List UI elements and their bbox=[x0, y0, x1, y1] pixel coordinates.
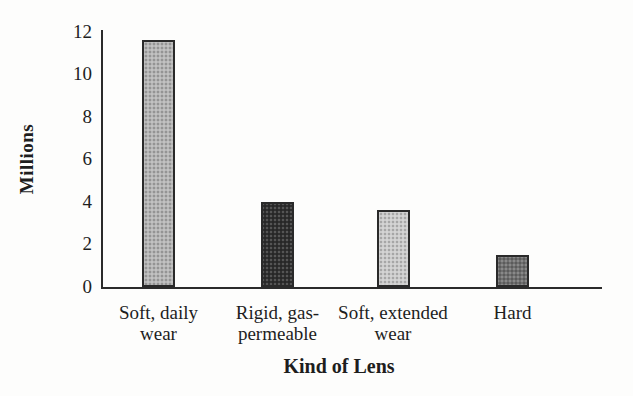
y-tick-label: 12 bbox=[50, 22, 92, 42]
category-label: Soft, extended wear bbox=[327, 302, 459, 344]
y-tick-label: 4 bbox=[50, 192, 92, 212]
bar-1 bbox=[142, 40, 175, 287]
y-tick-label: 8 bbox=[50, 107, 92, 127]
y-tick-label: 6 bbox=[50, 149, 92, 169]
y-tick-label: 0 bbox=[50, 277, 92, 297]
bar-chart-figure: Millions 121086420 Soft, daily wearRigid… bbox=[0, 0, 633, 396]
y-axis-line bbox=[101, 30, 103, 289]
category-label: Rigid, gas-permeable bbox=[222, 302, 334, 344]
bar-2 bbox=[261, 202, 294, 287]
bar-4 bbox=[496, 255, 529, 287]
category-label: Soft, daily wear bbox=[109, 302, 209, 344]
y-tick-label: 2 bbox=[50, 234, 92, 254]
bar-3 bbox=[377, 210, 410, 287]
y-axis-title: Millions bbox=[16, 124, 38, 195]
x-axis-line bbox=[101, 287, 602, 289]
category-label: Hard bbox=[473, 302, 553, 323]
y-tick-label: 10 bbox=[50, 64, 92, 84]
x-axis-title: Kind of Lens bbox=[283, 355, 394, 378]
